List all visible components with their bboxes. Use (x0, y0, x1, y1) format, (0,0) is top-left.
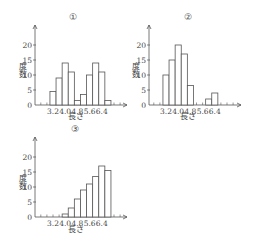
histogram-bar (181, 54, 187, 105)
x-tick-label: 6.4 (96, 107, 108, 116)
y-tick-label: 0 (27, 101, 32, 110)
histogram-bar (87, 184, 93, 217)
y-tick-label: 20 (22, 41, 32, 50)
histogram-bar (74, 199, 80, 217)
histogram-bar (105, 101, 111, 106)
x-tick-label: 6.4 (96, 219, 108, 228)
histogram-bar (105, 171, 111, 218)
histogram-bar (175, 45, 181, 105)
histogram-2: ②051015203.24.04.85.66.4度数長さ (130, 0, 253, 120)
histogram-bar (163, 75, 169, 105)
y-tick-label: 5 (141, 86, 146, 95)
y-tick-label: 0 (141, 101, 146, 110)
histogram-bar (212, 93, 218, 105)
histogram-bar (74, 101, 80, 106)
histogram-svg: ②051015203.24.04.85.66.4度数長さ (130, 0, 253, 120)
histogram-bar (99, 166, 105, 217)
x-axis-label: 長さ (68, 112, 84, 120)
x-axis-label: 長さ (180, 112, 196, 120)
histogram-bar (56, 78, 62, 105)
histogram-bar (68, 72, 74, 105)
x-tick-label: 3.2 (47, 107, 59, 116)
x-tick-label: 3.2 (160, 107, 172, 116)
y-tick-label: 20 (22, 153, 32, 162)
histogram-bar (187, 86, 193, 106)
panel-title: ③ (71, 124, 79, 134)
histogram-svg: ③051015203.24.04.85.66.4度数長さ (0, 120, 130, 246)
y-axis-label: 度数 (18, 173, 27, 191)
histogram-bar (93, 63, 99, 105)
histogram-bar (62, 214, 68, 217)
y-tick-label: 5 (27, 86, 32, 95)
y-tick-label: 20 (136, 41, 146, 50)
histogram-bar (50, 92, 56, 106)
histogram-bar (99, 72, 105, 105)
x-tick-label: 5.6 (84, 219, 96, 228)
histogram-bar (87, 75, 93, 105)
histogram-svg: ①051015203.24.04.85.66.4度数長さ (0, 0, 130, 120)
histogram-bar (80, 95, 86, 106)
histogram-bar (169, 60, 175, 105)
histogram-3: ③051015203.24.04.85.66.4度数長さ (0, 120, 130, 246)
histogram-1: ①051015203.24.04.85.66.4度数長さ (0, 0, 130, 120)
x-tick-label: 5.6 (197, 107, 209, 116)
histogram-bar (93, 177, 99, 218)
panel-title: ① (69, 12, 77, 22)
y-tick-label: 5 (27, 198, 32, 207)
x-tick-label: 6.4 (209, 107, 221, 116)
histogram-bar (80, 190, 86, 217)
y-axis-label: 度数 (18, 61, 27, 79)
x-tick-label: 5.6 (84, 107, 96, 116)
histogram-bar (206, 99, 212, 105)
y-tick-label: 0 (27, 213, 32, 222)
y-axis-label: 度数 (131, 61, 140, 79)
histogram-bar (68, 208, 74, 217)
panel-title: ② (184, 12, 192, 22)
x-tick-label: 3.2 (47, 219, 59, 228)
histogram-bar (62, 63, 68, 105)
x-axis-label: 長さ (68, 225, 84, 234)
